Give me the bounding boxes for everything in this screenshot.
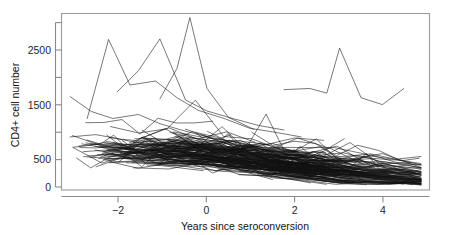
- x-tick-label-2: 2: [292, 204, 298, 216]
- x-axis-title: Years since seroconversion: [181, 220, 309, 232]
- y-tick-label-1500: 1500: [28, 99, 52, 111]
- y-axis-title: CD4+ cell number: [9, 62, 21, 147]
- cd4-spaghetti-chart: 2500 1500 500 0 −2 0 2 4 Years since ser…: [0, 0, 455, 235]
- x-tick-label-0: 0: [203, 204, 209, 216]
- x-tick-label-minus2: −2: [112, 204, 124, 216]
- y-tick-label-0: 0: [45, 181, 51, 193]
- figure-panel: 2500 1500 500 0 −2 0 2 4 Years since ser…: [0, 0, 455, 235]
- y-tick-label-2500: 2500: [28, 44, 52, 56]
- y-tick-label-500: 500: [33, 153, 51, 165]
- chart-background: [0, 0, 455, 235]
- x-tick-label-4: 4: [380, 204, 386, 216]
